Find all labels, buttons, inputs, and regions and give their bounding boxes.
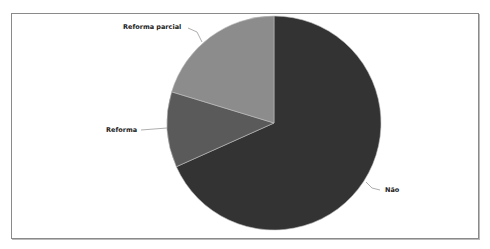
leader-line-nao (366, 182, 380, 190)
label-reforma-parcial: Reforma parcial (123, 23, 181, 31)
pie-slices (167, 16, 381, 230)
leader-line-reforma (141, 128, 167, 130)
label-nao: Não (385, 186, 400, 194)
label-reforma: Reforma (106, 126, 137, 134)
pie-chart: Reforma parcial Reforma Não (0, 0, 490, 249)
leader-line-reforma-parcial (188, 28, 202, 42)
